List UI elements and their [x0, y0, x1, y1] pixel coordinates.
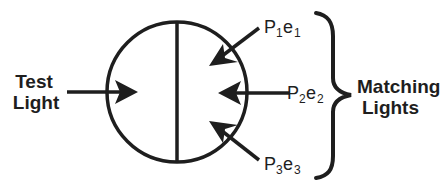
svg-text:3: 3	[276, 163, 283, 177]
primary-3-arrow	[209, 121, 259, 160]
matching-lights-label-line2: Lights	[362, 97, 419, 118]
primary-2-label: P 2 e 2	[287, 83, 324, 106]
matching-lights-label-line1: Matching	[357, 76, 440, 97]
svg-text:e: e	[283, 17, 293, 37]
svg-text:P: P	[287, 83, 299, 103]
svg-text:3: 3	[294, 163, 301, 177]
test-light-arrow	[67, 80, 138, 104]
svg-text:e: e	[283, 154, 293, 174]
svg-text:e: e	[306, 83, 316, 103]
svg-text:2: 2	[299, 92, 306, 106]
test-light-label-line2: Light	[13, 92, 60, 113]
svg-text:2: 2	[317, 92, 324, 106]
primary-2-arrow	[218, 81, 290, 105]
svg-text:1: 1	[294, 26, 301, 40]
primary-3-label: P 3 e 3	[264, 154, 301, 177]
primary-1-label: P 1 e 1	[264, 17, 301, 40]
color-matching-diagram: Test Light Matching Lights P 1 e 1 P 2 e…	[0, 0, 446, 184]
svg-text:P: P	[264, 154, 276, 174]
svg-text:1: 1	[276, 26, 283, 40]
svg-text:P: P	[264, 17, 276, 37]
test-light-label-line1: Test	[15, 71, 53, 92]
